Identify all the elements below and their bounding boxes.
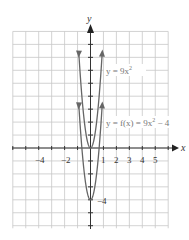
- arrowhead-icon: [99, 101, 105, 108]
- x-tick-label: −4: [35, 155, 45, 165]
- arrowhead-icon: [76, 50, 82, 57]
- x-axis-label: x: [180, 142, 186, 153]
- graph: y x −4 −2 1 2 3 4 5 −4 y = 9x2 y = f(x) …: [0, 0, 189, 240]
- y-axis-arrow-icon: [87, 24, 94, 33]
- x-tick-label: −2: [61, 155, 71, 165]
- x-tick-label: 3: [127, 155, 132, 165]
- curve2-label: y = f(x) = 9x2 − 4: [106, 117, 170, 128]
- curve1-label: y = 9x2: [106, 65, 132, 76]
- y-axis-label: y: [86, 13, 92, 24]
- x-tick-label: 4: [140, 155, 145, 165]
- vertex-label: −4: [97, 196, 107, 206]
- x-tick-label: 5: [153, 155, 158, 165]
- x-axis-arrow-icon: [172, 145, 179, 152]
- x-tick-label: 2: [114, 155, 119, 165]
- arrowhead-icon: [76, 102, 82, 109]
- arrowhead-icon: [99, 50, 105, 57]
- x-tick-label: 1: [101, 155, 106, 165]
